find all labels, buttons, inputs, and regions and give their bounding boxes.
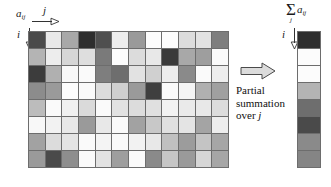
caption-line-1: Partial — [236, 84, 294, 97]
matrix-cell — [162, 151, 178, 167]
matrix-cell — [179, 49, 195, 65]
sigma-icon: Σ — [286, 3, 296, 17]
sum-bar-cell — [298, 66, 320, 82]
matrix-cell — [162, 32, 178, 48]
matrix-cell — [112, 83, 128, 99]
matrix-cell — [46, 151, 62, 167]
matrix-cell — [29, 49, 45, 65]
j-axis-annotation: j — [32, 6, 62, 26]
matrix-cell — [79, 83, 95, 99]
matrix-cell — [96, 66, 112, 82]
matrix-cell — [146, 134, 162, 150]
matrix-cell — [112, 32, 128, 48]
matrix-cell — [146, 49, 162, 65]
matrix-cell — [212, 134, 228, 150]
matrix-cell — [62, 66, 78, 82]
transform-caption: Partial summation over j — [236, 84, 294, 122]
matrix-cell — [62, 83, 78, 99]
matrix-cell — [62, 151, 78, 167]
matrix-cell — [129, 32, 145, 48]
matrix-cell — [29, 100, 45, 116]
sum-bar-cell — [298, 49, 320, 65]
matrix-cell — [62, 134, 78, 150]
matrix-cell — [129, 66, 145, 82]
matrix-cell — [62, 49, 78, 65]
caption-line-3: over j — [236, 109, 294, 122]
caption-line-2: summation — [236, 97, 294, 110]
matrix-cell — [162, 134, 178, 150]
matrix-cell — [112, 100, 128, 116]
summation-operand-subscript: ij — [302, 9, 306, 17]
matrix-cell — [29, 32, 45, 48]
matrix-cell — [129, 151, 145, 167]
sigma-operator: Σ j — [286, 3, 296, 24]
matrix-cell — [112, 49, 128, 65]
matrix-cell — [179, 66, 195, 82]
matrix-cell — [96, 100, 112, 116]
matrix-cell — [162, 100, 178, 116]
sigma-subscript: j — [290, 17, 292, 24]
matrix-cell — [146, 32, 162, 48]
matrix-cell — [162, 49, 178, 65]
matrix-cell — [79, 117, 95, 133]
matrix-symbol-label: aij — [16, 8, 25, 21]
matrix-heatmap — [28, 31, 229, 168]
matrix-cell — [96, 134, 112, 150]
matrix-cell — [212, 66, 228, 82]
matrix-cell — [46, 117, 62, 133]
summation-result-bar — [297, 31, 321, 168]
matrix-symbol-subscript: ij — [22, 13, 26, 21]
caption-over-var: j — [258, 109, 261, 121]
matrix-cell — [146, 66, 162, 82]
matrix-cell — [179, 117, 195, 133]
caption-over-word: over — [236, 109, 258, 121]
matrix-cell — [79, 32, 95, 48]
matrix-cell — [112, 151, 128, 167]
matrix-cell — [46, 66, 62, 82]
summation-operand: aij — [297, 4, 306, 17]
matrix-cell — [112, 66, 128, 82]
sum-bar-cell — [298, 83, 320, 99]
matrix-cell — [196, 49, 212, 65]
sum-bar-cell — [298, 151, 320, 167]
summation-formula-label: Σ j aij — [286, 3, 306, 24]
matrix-cell — [162, 83, 178, 99]
matrix-cell — [112, 117, 128, 133]
matrix-cell — [62, 117, 78, 133]
matrix-cell — [196, 83, 212, 99]
matrix-cell — [212, 117, 228, 133]
matrix-cell — [196, 100, 212, 116]
matrix-cell — [96, 83, 112, 99]
i-axis-label: i — [17, 29, 20, 40]
matrix-cell — [162, 66, 178, 82]
matrix-cell — [46, 49, 62, 65]
matrix-cell — [129, 117, 145, 133]
matrix-cell — [29, 117, 45, 133]
matrix-cell — [29, 151, 45, 167]
matrix-cell — [179, 100, 195, 116]
matrix-cell — [62, 100, 78, 116]
matrix-cell — [79, 49, 95, 65]
matrix-cell — [46, 100, 62, 116]
matrix-cell — [196, 134, 212, 150]
sum-bar-cell — [298, 32, 320, 48]
matrix-cell — [79, 100, 95, 116]
matrix-cell — [179, 32, 195, 48]
matrix-cell — [196, 117, 212, 133]
matrix-cell — [146, 100, 162, 116]
arrow-right-icon — [32, 17, 60, 26]
sum-bar-cell — [298, 100, 320, 116]
matrix-cell — [96, 117, 112, 133]
matrix-cell — [196, 32, 212, 48]
sum-bar-cell — [298, 134, 320, 150]
j-axis-label: j — [43, 5, 46, 16]
matrix-cell — [179, 151, 195, 167]
matrix-cell — [29, 134, 45, 150]
matrix-cell — [96, 49, 112, 65]
matrix-cell — [112, 134, 128, 150]
matrix-cell — [46, 83, 62, 99]
matrix-cell — [96, 151, 112, 167]
matrix-cell — [179, 134, 195, 150]
matrix-cell — [129, 134, 145, 150]
matrix-cell — [146, 117, 162, 133]
